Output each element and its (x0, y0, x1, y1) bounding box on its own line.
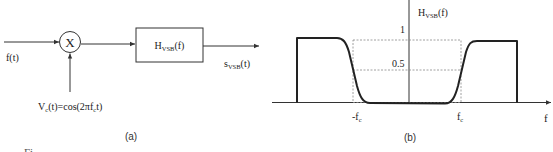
output-label: sVSB(t) (224, 58, 250, 70)
caption-b: (b) (404, 132, 416, 143)
pos-fc-label: fc (457, 111, 463, 123)
neg-fc-label: -fc (352, 111, 362, 123)
panel-a-block-diagram: f(t) X Vc(t)=cos(2πfct) HVSB(f) sVSB(t) … (4, 28, 259, 142)
y-axis-label: HVSB(f) (418, 7, 448, 19)
caption-a: (a) (125, 131, 137, 142)
x-axis-label: f (544, 112, 548, 124)
carrier-label: Vc(t)=cos(2πfct) (38, 101, 102, 113)
mixer-symbol: X (65, 35, 75, 50)
tick-one: 1 (400, 24, 405, 35)
reference-box (353, 40, 461, 103)
vsb-diagram: f(t) X Vc(t)=cos(2πfct) HVSB(f) sVSB(t) … (0, 0, 553, 152)
response-curve (297, 38, 517, 104)
figure-caption-fragment: Fi (24, 146, 33, 152)
tick-half: 0.5 (392, 58, 405, 69)
input-label: f(t) (6, 52, 19, 64)
panel-b-frequency-response: HVSB(f) 1 0.5 -fc fc f (b) (272, 0, 551, 143)
filter-label: HVSB(f) (155, 40, 185, 52)
